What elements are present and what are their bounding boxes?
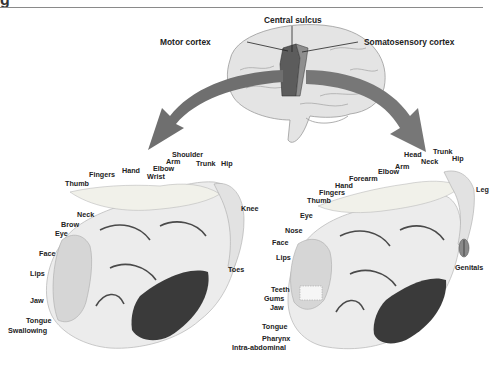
sensory-label-neck: Neck	[421, 158, 438, 165]
motor-label-brow: Brow	[61, 221, 79, 228]
motor-label-hip: Hip	[221, 160, 233, 167]
motor-label-thumb: Thumb	[65, 180, 89, 187]
sensory-label-nose: Nose	[285, 227, 303, 234]
label-central-sulcus: Central sulcus	[264, 16, 322, 24]
label-motor-cortex: Motor cortex	[160, 38, 211, 46]
sensory-label-intra-abdominal: Intra-abdominal	[232, 344, 286, 351]
sensory-label-teeth: Teeth	[271, 286, 290, 293]
motor-label-face: Face	[39, 250, 55, 257]
sensory-label-genitals: Genitals	[455, 264, 483, 271]
sensory-label-gums: Gums	[264, 295, 284, 302]
sensory-label-hip: Hip	[452, 155, 464, 162]
motor-label-lips: Lips	[30, 270, 45, 277]
label-somatosensory-cortex: Somatosensory cortex	[364, 38, 454, 46]
sensory-label-face: Face	[272, 239, 288, 246]
motor-label-jaw: Jaw	[30, 297, 44, 304]
motor-label-fingers: Fingers	[89, 171, 115, 178]
sensory-label-jaw: Jaw	[270, 304, 284, 311]
motor-label-eye: Eye	[55, 230, 68, 237]
motor-label-neck: Neck	[77, 211, 94, 218]
sensory-label-head: Head	[404, 151, 422, 158]
motor-label-wrist: Wrist	[147, 173, 165, 180]
motor-label-hand: Hand	[122, 167, 140, 174]
sensory-label-eye: Eye	[300, 212, 313, 219]
motor-homunculus-section	[46, 182, 244, 348]
sensory-label-elbow: Elbow	[378, 168, 399, 175]
motor-label-toes: Toes	[228, 266, 244, 273]
sensory-label-forearm: Forearm	[349, 175, 378, 182]
sensory-label-trunk: Trunk	[433, 148, 453, 155]
sensory-label-leg: Leg	[476, 186, 489, 193]
motor-label-knee: Knee	[241, 205, 259, 212]
sensory-label-pharynx: Pharynx	[262, 335, 290, 342]
motor-label-swallowing: Swallowing	[8, 327, 47, 334]
sensory-label-lips: Lips	[276, 254, 291, 261]
sensory-label-thumb: Thumb	[307, 197, 331, 204]
motor-label-tongue: Tongue	[26, 317, 51, 324]
sensory-label-tongue: Tongue	[262, 323, 287, 330]
motor-label-trunk: Trunk	[196, 160, 216, 167]
